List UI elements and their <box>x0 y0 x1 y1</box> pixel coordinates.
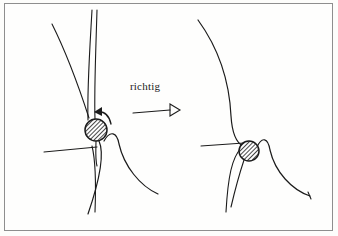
femur-anterior-curve-right <box>198 20 243 146</box>
patellar-tendon-right <box>226 148 241 212</box>
femur-axis-line-inner-left <box>95 10 97 119</box>
tibial-plateau-line-right <box>201 143 244 146</box>
annotation-arrow-group <box>133 104 180 116</box>
femur-lateral-curve-left <box>52 24 89 118</box>
femur-axis-line-outer-left <box>88 10 92 120</box>
tibial-plateau-line-left <box>44 147 97 152</box>
patella-circle-left <box>85 119 107 141</box>
tibia-shaft-right <box>231 160 244 207</box>
tibial-tubercle-bump-right <box>257 140 310 196</box>
right-panel-drawing <box>198 20 311 212</box>
tibia-posterior-curve-left <box>92 146 96 212</box>
straight-arrow-right-head <box>170 104 180 116</box>
straight-arrow-right-shaft <box>133 110 170 113</box>
figure-page: richtig <box>0 0 338 236</box>
drawing-canvas <box>0 0 338 236</box>
tibial-tubercle-bump-left <box>104 134 158 194</box>
patellar-tendon-upper-left <box>96 140 97 166</box>
patella-circle-right <box>239 141 259 161</box>
tibia-anterior-curve-left <box>88 141 101 214</box>
richtig-label: richtig <box>130 80 160 92</box>
